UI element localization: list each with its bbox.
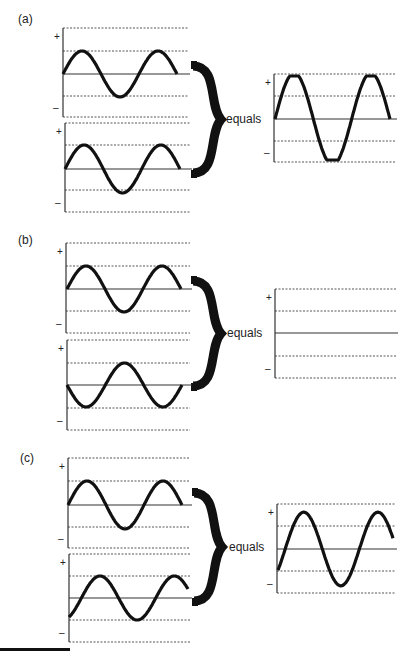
- chart-c-sum-wave-plus-sign: +: [268, 508, 274, 518]
- chart-a-sum-wave-minus-sign: –: [264, 148, 270, 158]
- chart-b-input-wave-2-plus-sign: +: [58, 344, 64, 354]
- chart-b-sum-wave-plus-sign: +: [266, 293, 272, 303]
- brace-bottom-tip-c: [192, 598, 198, 606]
- chart-c-input-wave-1-plus-sign: +: [59, 462, 65, 472]
- chart-c-sum-wave-minus-sign: –: [267, 579, 273, 589]
- chart-b-input-wave-1-minus-sign: –: [56, 319, 62, 329]
- chart-c-input-wave-1-minus-sign: –: [58, 534, 64, 544]
- panel-label-b: (b): [18, 233, 33, 247]
- panel-label-c: (c): [20, 451, 34, 465]
- equals-label-a: equals: [226, 112, 261, 126]
- curly-brace-a: [193, 66, 221, 173]
- brace-bottom-tip-a: [191, 170, 197, 178]
- equals-label-b: equals: [227, 326, 262, 340]
- chart-a-input-wave-1-minus-sign: –: [53, 103, 59, 113]
- equals-label-c: equals: [229, 540, 264, 554]
- chart-a-sum-wave-wave-line: [275, 76, 390, 160]
- brace-top-tip-b: [191, 276, 197, 284]
- brace-top-tip-c: [192, 488, 198, 496]
- brace-top-tip-a: [191, 61, 197, 69]
- chart-a-input-wave-2-plus-sign: +: [56, 127, 62, 137]
- chart-a-input-wave-1-plus-sign: +: [54, 32, 60, 42]
- panel-label-a: (a): [18, 12, 33, 26]
- chart-b-input-wave-2-minus-sign: –: [57, 416, 63, 426]
- brace-bottom-tip-b: [191, 383, 197, 391]
- curly-brace-b: [193, 281, 221, 386]
- chart-b-sum-wave-minus-sign: –: [265, 364, 271, 374]
- chart-b-input-wave-1-plus-sign: +: [57, 247, 63, 257]
- chart-a-input-wave-2-minus-sign: –: [55, 198, 61, 208]
- chart-a-sum-wave-plus-sign: +: [265, 78, 271, 88]
- curly-brace-c: [194, 493, 222, 601]
- chart-c-input-wave-2-minus-sign: –: [59, 628, 65, 638]
- chart-c-input-wave-2-plus-sign: +: [60, 558, 66, 568]
- wave-superposition-figure: (a)equals+–+–+–(b)equals+–+–+–(c)equals+…: [0, 0, 411, 651]
